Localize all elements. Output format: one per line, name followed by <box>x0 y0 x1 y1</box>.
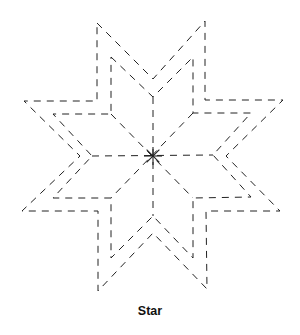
center-starburst-mark <box>144 147 162 165</box>
star-pattern-diagram <box>0 0 300 335</box>
figure-caption: Star <box>0 304 300 318</box>
